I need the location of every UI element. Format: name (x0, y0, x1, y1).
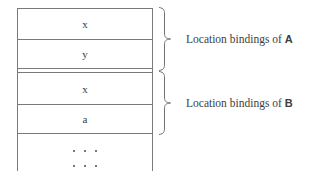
stack-line-group-divider-upper (17, 68, 153, 69)
stack-line-cell1-cell2 (17, 39, 153, 40)
brace-group-b (158, 70, 174, 136)
stack-line-cell3-cell4 (17, 104, 153, 105)
annotation-group-a: Location bindings of A (186, 33, 293, 46)
ellipsis-row-2 (17, 165, 153, 167)
ellipsis-row-1 (17, 150, 153, 152)
stack-cell-3-label: x (17, 84, 153, 95)
ellipsis-dot (73, 150, 75, 152)
annotation-group-a-prefix: Location bindings of (186, 33, 285, 45)
ellipsis-dot (84, 165, 86, 167)
brace-group-a (158, 6, 174, 72)
stack-line-group-divider-lower (17, 72, 153, 73)
annotation-group-a-target: A (285, 33, 293, 45)
annotation-group-b-target: B (285, 97, 293, 109)
ellipsis-dot (95, 150, 97, 152)
stack-line-bottom (17, 133, 153, 134)
ellipsis-dot (95, 165, 97, 167)
stack-line-top (17, 8, 153, 9)
stack-cell-1-label: x (17, 19, 153, 30)
ellipsis-dot (73, 165, 75, 167)
ellipsis-dot (84, 150, 86, 152)
stack-cell-2-label: y (17, 49, 153, 60)
annotation-group-b-prefix: Location bindings of (186, 97, 285, 109)
annotation-group-b: Location bindings of B (186, 97, 293, 110)
location-bindings-diagram: x y x a Location bindings of A Location … (0, 0, 330, 178)
stack-cell-4-label: a (17, 114, 153, 125)
